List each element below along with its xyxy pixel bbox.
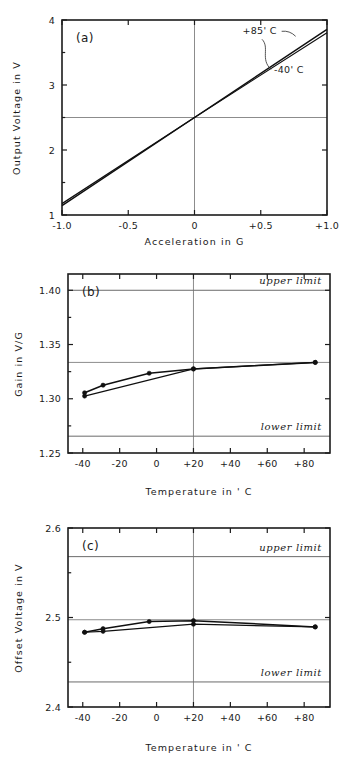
chart-panel-a: -1.0-0.50+0.5+1.01234(a)Acceleration in … bbox=[0, 0, 345, 252]
x-tick-label: +80 bbox=[294, 712, 315, 723]
chart-panel-c: upper limitlower limit-40-200+20+40+60+8… bbox=[0, 506, 345, 762]
y-axis-title: Output Voltage in V bbox=[11, 61, 22, 175]
y-tick-label: 1.30 bbox=[39, 393, 61, 404]
x-tick-label: +60 bbox=[257, 458, 278, 469]
annotation-label-0: +85' C bbox=[243, 25, 277, 36]
data-point bbox=[191, 367, 195, 371]
x-tick-label: +40 bbox=[220, 458, 241, 469]
x-tick-label: 0 bbox=[153, 458, 159, 469]
x-tick-label: -0.5 bbox=[119, 220, 138, 231]
y-tick-label: 3 bbox=[49, 80, 55, 91]
y-tick-label: 1.35 bbox=[39, 339, 61, 350]
annotation-leader-0 bbox=[282, 31, 296, 36]
x-tick-label: +20 bbox=[183, 712, 204, 723]
lower-limit-label: lower limit bbox=[261, 421, 323, 432]
data-point bbox=[313, 360, 317, 364]
data-point bbox=[147, 619, 151, 623]
x-tick-label: +60 bbox=[257, 712, 278, 723]
annotation-leader-1 bbox=[262, 39, 271, 69]
y-tick-label: 1.25 bbox=[39, 448, 61, 459]
annotation-label-1: -40' C bbox=[274, 64, 304, 75]
y-tick-label: 1 bbox=[49, 210, 55, 221]
data-point bbox=[83, 394, 87, 398]
x-tick-label: -40 bbox=[75, 712, 91, 723]
series-line-gain-curve-2 bbox=[85, 362, 316, 396]
x-axis-title: Temperature in ' C bbox=[145, 742, 253, 753]
x-axis-title: Temperature in ' C bbox=[145, 486, 253, 497]
y-axis-title: Gain in V/G bbox=[13, 331, 24, 397]
panel-tag-a: (a) bbox=[76, 31, 94, 45]
x-tick-label: +40 bbox=[220, 712, 241, 723]
y-tick-label: 2.5 bbox=[45, 612, 61, 623]
x-tick-label: 0 bbox=[191, 220, 197, 231]
y-tick-label: 2.4 bbox=[45, 702, 61, 713]
y-tick-label: 4 bbox=[49, 15, 55, 26]
y-tick-label: 2 bbox=[49, 145, 55, 156]
series-line-gain-curve-1 bbox=[85, 362, 316, 392]
x-axis-title: Acceleration in G bbox=[145, 236, 245, 247]
x-tick-label: -1.0 bbox=[52, 220, 71, 231]
y-tick-label: 1.40 bbox=[39, 285, 61, 296]
x-tick-label: +0.5 bbox=[249, 220, 273, 231]
x-tick-label: +80 bbox=[294, 458, 315, 469]
x-tick-label: -20 bbox=[112, 458, 128, 469]
chart-a-svg: -1.0-0.50+0.5+1.01234(a)Acceleration in … bbox=[0, 0, 345, 252]
upper-limit-label: upper limit bbox=[259, 542, 322, 553]
x-tick-label: +1.0 bbox=[315, 220, 339, 231]
lower-limit-label: lower limit bbox=[261, 667, 323, 678]
panel-tag-b: (b) bbox=[82, 285, 100, 299]
x-tick-label: +20 bbox=[183, 458, 204, 469]
x-tick-label: -40 bbox=[75, 458, 91, 469]
x-tick-label: 0 bbox=[153, 712, 159, 723]
figure-page: -1.0-0.50+0.5+1.01234(a)Acceleration in … bbox=[0, 0, 345, 762]
chart-b-svg: upper limitlower limit-40-200+20+40+60+8… bbox=[0, 252, 345, 506]
data-point bbox=[313, 625, 317, 629]
y-tick-label: 2.6 bbox=[45, 523, 61, 534]
chart-panel-b: upper limitlower limit-40-200+20+40+60+8… bbox=[0, 252, 345, 506]
panel-tag-c: (c) bbox=[82, 539, 99, 553]
x-tick-label: -20 bbox=[112, 712, 128, 723]
data-point bbox=[191, 622, 195, 626]
data-point bbox=[101, 629, 105, 633]
y-axis-title: Offset Voltage in V bbox=[13, 563, 24, 672]
chart-c-svg: upper limitlower limit-40-200+20+40+60+8… bbox=[0, 506, 345, 762]
plot-frame bbox=[68, 528, 330, 707]
data-point bbox=[147, 371, 151, 375]
data-point bbox=[101, 383, 105, 387]
data-point bbox=[83, 630, 87, 634]
upper-limit-label: upper limit bbox=[259, 275, 322, 286]
